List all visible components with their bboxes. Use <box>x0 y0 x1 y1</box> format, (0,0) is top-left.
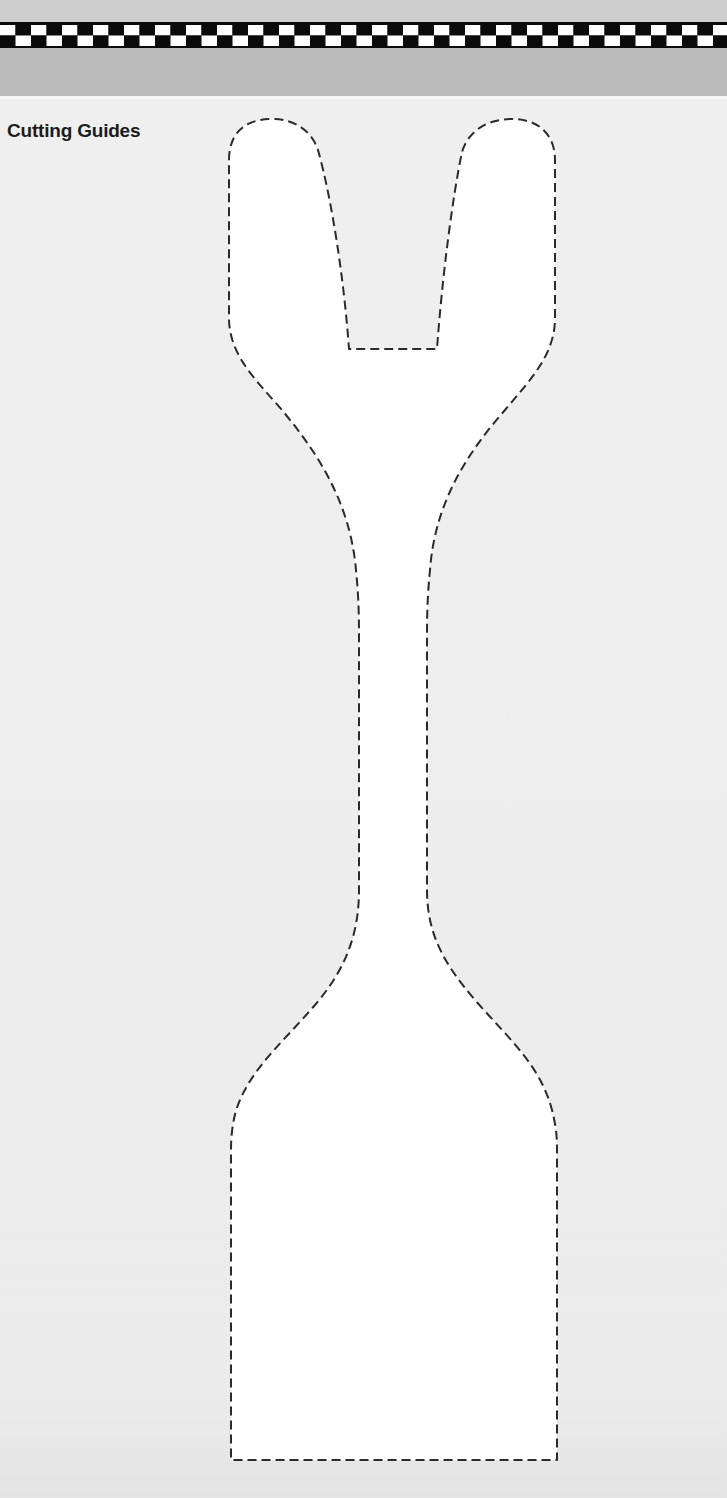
cutting-template <box>0 0 727 1498</box>
cutting-outline-icon <box>0 0 727 1498</box>
